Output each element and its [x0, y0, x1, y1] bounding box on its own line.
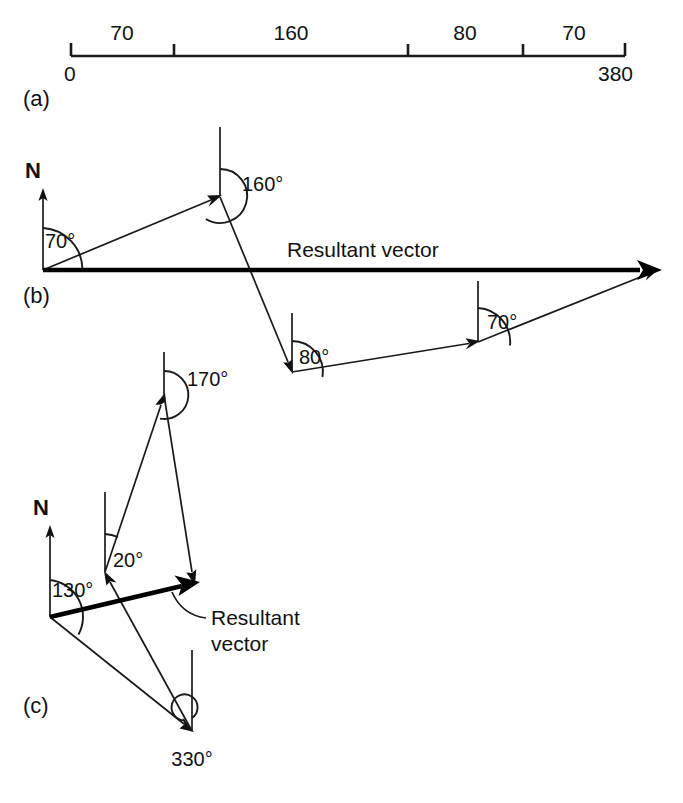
panel-label-c: (c): [23, 693, 49, 718]
scale-segment-label-2: 160: [273, 21, 308, 44]
panel-a-scale-bar: 70 160 80 70 0 380 (a): [23, 21, 633, 111]
vector-2-shaft-b: [220, 197, 288, 362]
vector-4-shaft-b: [478, 274, 648, 342]
scale-segment-label-4: 70: [562, 21, 585, 44]
panel-c-vector-chain: N 130° 330° 20°: [23, 352, 300, 770]
north-label-b: N: [25, 158, 41, 183]
north-label-c: N: [33, 495, 49, 520]
panel-b-vector-chain: N 70° 160° 80°: [23, 127, 662, 377]
angle-label-70b-b: 70°: [487, 311, 517, 333]
angle-label-130-c: 130°: [52, 579, 93, 601]
figure-canvas: 70 160 80 70 0 380 (a) N 70°: [0, 0, 683, 803]
resultant-label-b: Resultant vector: [287, 238, 439, 261]
angle-label-170-c: 170°: [187, 368, 228, 390]
scale-segment-label-3: 80: [453, 21, 476, 44]
scale-segment-label-1: 70: [110, 21, 133, 44]
angle-label-70-b: 70°: [45, 230, 75, 252]
vector-4-shaft-c: [164, 395, 192, 572]
angle-label-160-b: 160°: [242, 173, 283, 195]
resultant-leader-c: [172, 592, 206, 618]
panel-label-a: (a): [23, 86, 50, 111]
vector-3-shaft-c: [105, 405, 161, 572]
angle-label-20-c: 20°: [113, 549, 143, 571]
resultant-label-c-line1: Resultant: [211, 606, 300, 629]
panel-label-b: (b): [23, 283, 50, 308]
vector-diagram-figure: 70 160 80 70 0 380 (a) N 70°: [0, 0, 683, 803]
angle-label-330-c: 330°: [171, 748, 212, 770]
angle-label-80-b: 80°: [299, 346, 329, 368]
scale-end-label: 380: [598, 62, 633, 85]
resultant-label-c-line2: vector: [211, 632, 268, 655]
vector-1-shaft-c: [50, 617, 184, 724]
scale-start-label: 0: [64, 62, 76, 85]
